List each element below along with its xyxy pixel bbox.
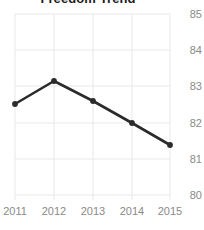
data-point-2014 xyxy=(129,120,135,126)
y-tick-label-80: 80 xyxy=(176,190,202,201)
x-tick-label-2012: 2012 xyxy=(34,206,74,217)
line-chart: Freedom Trend 85 84 xyxy=(0,0,204,230)
y-tick-label-82: 82 xyxy=(176,118,202,129)
plot-area xyxy=(0,0,204,230)
data-point-2012 xyxy=(51,78,57,84)
y-tick-label-84: 84 xyxy=(176,45,202,56)
y-tick-label-85: 85 xyxy=(176,9,202,20)
data-point-2011 xyxy=(12,101,18,107)
vertical-gridlines xyxy=(15,14,170,200)
x-tick-label-2013: 2013 xyxy=(73,206,113,217)
data-point-2015 xyxy=(167,142,173,148)
y-tick-label-83: 83 xyxy=(176,81,202,92)
y-tick-label-81: 81 xyxy=(176,154,202,165)
x-tick-label-2011: 2011 xyxy=(0,206,35,217)
x-tick-label-2014: 2014 xyxy=(112,206,152,217)
data-point-2013 xyxy=(90,98,96,104)
x-tick-label-2015: 2015 xyxy=(150,206,190,217)
